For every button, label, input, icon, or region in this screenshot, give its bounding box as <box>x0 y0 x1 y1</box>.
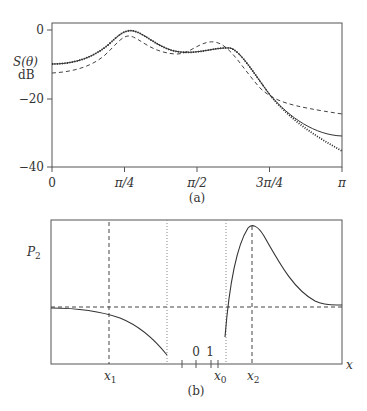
series-dotted <box>52 31 342 151</box>
curve-right-branch <box>225 226 342 337</box>
x-tick-label-0: 0 <box>48 176 56 190</box>
x-tick-label-pi2: π/2 <box>186 176 207 190</box>
tick-label-x0: x0 <box>214 369 227 385</box>
plot-frame-a <box>52 23 342 167</box>
plot-frame-b <box>51 220 342 364</box>
curve-left-branch <box>51 308 167 355</box>
y-tick-label-minus20: −20 <box>19 92 44 106</box>
tick-label-0: 0 <box>192 345 200 359</box>
y-axis-label-a: S(θ) <box>13 55 38 69</box>
figure: 0 −20 −40 S(θ) dB 0 π/4 π/2 3π/4 π (a) P… <box>0 0 367 411</box>
series-dashed <box>52 36 342 114</box>
tick-label-x2: x2 <box>247 369 260 385</box>
panel-b: P2 0 1 x1 x0 x2 x (b) <box>26 220 353 398</box>
tick-label-1: 1 <box>206 345 214 359</box>
y-tick-label-minus40: −40 <box>19 160 44 174</box>
panel-a: 0 −20 −40 S(θ) dB 0 π/4 π/2 3π/4 π (a) <box>13 23 347 205</box>
panel-caption-b: (b) <box>187 384 204 398</box>
x-tick-label-3pi4: 3π/4 <box>256 176 283 190</box>
panel-caption-a: (a) <box>189 191 206 205</box>
x-axis-label-b: x <box>346 358 353 372</box>
y-axis-label-b: P2 <box>26 245 41 261</box>
y-axis-unit-a: dB <box>18 68 35 82</box>
y-tick-label-0: 0 <box>36 23 44 37</box>
x-tick-label-pi: π <box>337 176 347 190</box>
tick-label-x1: x1 <box>104 369 117 385</box>
x-tick-label-pi4: π/4 <box>114 176 135 190</box>
